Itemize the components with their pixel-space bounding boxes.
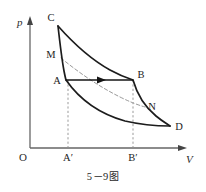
figure-caption: 5－9图 [0, 168, 206, 183]
cb-upper-curve [58, 26, 133, 80]
tick-label-a-prime: A′ [63, 152, 73, 163]
point-label-m: M [46, 49, 56, 60]
ab-arrowhead [97, 77, 106, 84]
origin-label: O [19, 151, 27, 163]
point-label-n: N [148, 101, 156, 112]
point-label-a: A [53, 75, 61, 86]
point-label-d: D [175, 121, 183, 132]
droplines-group [68, 80, 133, 148]
y-axis-arrowhead [27, 16, 33, 25]
point-label-b: B [137, 69, 144, 80]
tick-label-b-prime: B′ [128, 152, 137, 163]
y-axis-label: p [16, 16, 23, 28]
axes-group [27, 16, 187, 151]
figure-container: p V O C M A B N D A′ B′ [0, 0, 206, 192]
ab-process-arrow [66, 77, 133, 84]
caption-word: 图 [109, 171, 120, 182]
caption-number: 5－9 [87, 171, 109, 182]
x-axis-label: V [186, 153, 194, 165]
point-label-c: C [47, 12, 54, 23]
x-axis-arrowhead [178, 145, 187, 151]
pv-diagram: p V O C M A B N D A′ B′ [0, 0, 206, 175]
